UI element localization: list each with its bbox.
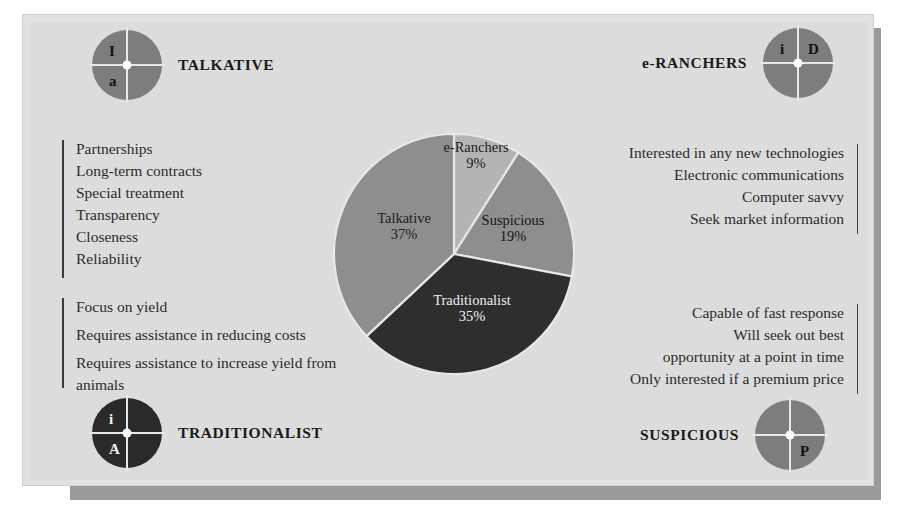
list-item: Will seek out best	[586, 324, 844, 346]
badge-group-traditionalist: i A TRADITIONALIST	[92, 398, 323, 468]
center-dot-icon	[794, 59, 803, 68]
list-item: Interested in any new technologies	[586, 142, 844, 164]
badge-label-talkative: TALKATIVE	[178, 56, 274, 74]
list-item: Electronic communications	[586, 164, 844, 186]
list-item: Partnerships	[76, 138, 326, 160]
badge-group-suspicious: SUSPICIOUS P	[640, 400, 825, 470]
trait-list-traditionalist: Focus on yield Requires assistance in re…	[62, 296, 338, 396]
bracket-rule	[857, 304, 859, 394]
segment-icon-talkative: I a	[92, 30, 162, 100]
trait-list-suspicious: Capable of fast response Will seek out b…	[586, 302, 858, 390]
quadrant-letter-bottom-left: A	[109, 442, 120, 457]
list-item: Reliability	[76, 248, 326, 270]
badge-group-talkative: I a TALKATIVE	[92, 30, 274, 100]
segment-icon-e-ranchers: i D	[763, 28, 833, 98]
segment-pie-chart: e-Ranchers 9% Suspicious 19% Traditional…	[332, 132, 576, 376]
trait-list-e-ranchers: Interested in any new technologies Elect…	[586, 142, 858, 230]
badge-group-e-ranchers: e-RANCHERS i D	[642, 28, 833, 98]
list-item: Requires assistance to increase yield fr…	[76, 352, 338, 396]
center-dot-icon	[123, 429, 132, 438]
badge-label-e-ranchers: e-RANCHERS	[642, 54, 747, 72]
quadrant-letter-bottom-left: a	[109, 74, 117, 89]
center-dot-icon	[123, 61, 132, 70]
segment-icon-suspicious: P	[755, 400, 825, 470]
list-item: Closeness	[76, 226, 326, 248]
bracket-rule	[62, 298, 64, 388]
pie-svg	[332, 132, 576, 376]
panel-shadow-bottom	[70, 485, 881, 500]
bracket-rule	[857, 144, 859, 234]
center-dot-icon	[786, 431, 795, 440]
quadrant-letter-top-left: i	[109, 412, 113, 427]
list-item: Only interested if a premium price	[586, 368, 844, 390]
segment-icon-traditionalist: i A	[92, 398, 162, 468]
badge-label-traditionalist: TRADITIONALIST	[178, 424, 323, 442]
list-item: Special treatment	[76, 182, 326, 204]
list-item: Seek market information	[586, 208, 844, 230]
badge-label-suspicious: SUSPICIOUS	[640, 426, 739, 444]
bracket-rule	[62, 140, 64, 278]
list-item: Requires assistance in reducing costs	[76, 324, 338, 346]
quadrant-letter-top-right: D	[808, 42, 819, 57]
list-item: Transparency	[76, 204, 326, 226]
quadrant-letter-bottom-right: P	[800, 444, 809, 459]
list-item: Long-term contracts	[76, 160, 326, 182]
list-item: Computer savvy	[586, 186, 844, 208]
list-item: Capable of fast response	[586, 302, 844, 324]
quadrant-letter-top-left: i	[780, 42, 784, 57]
list-item: opportunity at a point in time	[586, 346, 844, 368]
figure-root: I a TALKATIVE e-RANCHERS i D i A	[0, 0, 901, 519]
quadrant-letter-top-left: I	[109, 44, 115, 59]
trait-list-talkative: Partnerships Long-term contracts Special…	[62, 138, 326, 270]
list-item: Focus on yield	[76, 296, 338, 318]
